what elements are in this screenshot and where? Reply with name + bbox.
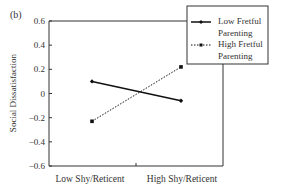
panel-label: (b) — [10, 9, 22, 21]
diamond-marker-icon — [179, 99, 183, 103]
square-marker-icon — [200, 44, 203, 47]
series-line-1 — [92, 67, 181, 121]
y-tick-label: −0.4 — [29, 137, 46, 147]
diamond-marker-icon — [90, 79, 94, 83]
chart: (b) 0.60.40.20−0.2−0.4−0.6 Social Dissat… — [0, 0, 285, 191]
square-marker-icon — [90, 119, 94, 123]
y-tick-label: −0.2 — [29, 113, 45, 123]
x-category-high: High Shy/Reticent — [147, 174, 218, 184]
series-group — [90, 65, 183, 123]
x-category-low: Low Shy/Reticent — [56, 174, 125, 184]
legend: Low Fretful Parenting High Fretful Paren… — [187, 6, 268, 64]
legend-low-line2: Parenting — [218, 28, 253, 38]
y-tick-label: 0.6 — [34, 16, 46, 26]
y-tick-label: −0.6 — [29, 161, 46, 171]
legend-high-line2: Parenting — [218, 51, 253, 61]
y-tick-label: 0.2 — [34, 64, 45, 74]
legend-high-line1: High Fretful — [218, 39, 263, 49]
series-line-0 — [92, 81, 181, 100]
square-marker-icon — [179, 65, 183, 69]
legend-low-line1: Low Fretful — [218, 16, 262, 26]
y-axis-label: Social Dissatisfaction — [8, 53, 18, 132]
y-tick-label: 0.4 — [34, 40, 46, 50]
y-tick-label: 0 — [41, 89, 46, 99]
